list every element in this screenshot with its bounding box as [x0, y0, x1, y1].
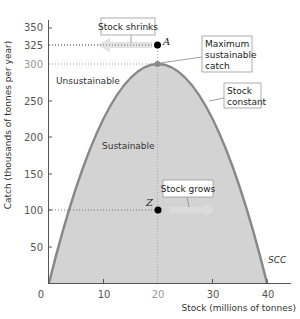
x-axis-title: Stock (millions of tonnes) [181, 303, 296, 313]
scc-label: SCC [268, 255, 287, 265]
y-tick-label-325: 325 [24, 40, 43, 51]
y-tick-label-100: 100 [24, 205, 43, 216]
point-a-marker [154, 42, 161, 49]
msc-text-line1: Maximum [205, 39, 249, 49]
stock-shrinks-text: Stock shrinks [98, 22, 158, 32]
msc-leader [160, 57, 202, 63]
msc-text-line3: catch [205, 61, 230, 71]
y-tick-label-50: 50 [30, 242, 43, 253]
x-tick-label-30: 30 [207, 289, 220, 300]
stock-constant-text-line1: Stock [227, 86, 253, 96]
y-tick-label-350: 350 [24, 22, 43, 33]
stock-grows-text: Stock grows [161, 184, 216, 194]
y-tick-label-250: 250 [24, 96, 43, 107]
sustainable-catch-chart: 50 100 150 200 250 300 325 350 0 10 20 3… [0, 0, 300, 319]
unsustainable-label: Unsustainable [56, 76, 120, 86]
max-sustainable-catch-marker [155, 61, 161, 67]
y-axis-title: Catch (thousands of tonnes per year) [3, 41, 13, 209]
stock-constant-text-line2: constant [227, 97, 267, 107]
x-tick-label-10: 10 [98, 289, 111, 300]
y-tick-label-200: 200 [24, 132, 43, 143]
y-tick-label-300: 300 [24, 59, 43, 70]
point-z-label: Z [145, 197, 154, 208]
stock-constant-leader [209, 98, 224, 101]
sustainable-label: Sustainable [102, 141, 155, 151]
x-tick-label-20: 20 [152, 289, 165, 300]
x-tick-label-40: 40 [262, 289, 275, 300]
x-tick-label-0: 0 [38, 289, 44, 300]
point-z-marker [155, 207, 162, 214]
y-tick-label-150: 150 [24, 169, 43, 180]
msc-text-line2: sustainable [205, 50, 257, 60]
point-a-label: A [162, 36, 170, 47]
